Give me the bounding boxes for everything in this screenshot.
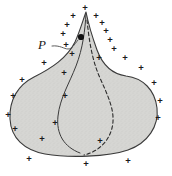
charge-sign: +	[157, 95, 163, 106]
charge-sign: +	[39, 133, 45, 144]
charge-sign: +	[41, 57, 47, 68]
charge-sign: +	[69, 48, 75, 59]
charge-sign: +	[111, 43, 117, 54]
charge-sign: +	[82, 2, 88, 13]
charge-sign: +	[122, 52, 128, 63]
charge-sign: +	[19, 74, 25, 85]
charge-sign: +	[97, 135, 103, 146]
point-p-marker	[78, 34, 84, 40]
charge-sign: +	[83, 158, 89, 169]
charge-sign: +	[12, 123, 18, 134]
charge-sign: +	[155, 112, 161, 123]
figure-container: P ++++++++++++++++++++++++++++++	[0, 0, 172, 176]
charge-sign: +	[96, 52, 102, 63]
charge-sign: +	[10, 90, 16, 101]
charge-sign: +	[26, 153, 32, 164]
charge-sign: +	[138, 62, 144, 73]
charge-sign: +	[60, 28, 66, 39]
charge-sign: +	[52, 117, 58, 128]
charge-sign: +	[61, 67, 67, 78]
charge-sign: +	[62, 90, 68, 101]
charge-sign: +	[70, 10, 76, 21]
point-p-label: P	[37, 37, 46, 52]
charge-sign: +	[5, 109, 11, 120]
charge-sign: +	[125, 155, 131, 166]
charged-conductor-figure: P ++++++++++++++++++++++++++++++	[0, 0, 172, 176]
charge-sign: +	[151, 77, 157, 88]
